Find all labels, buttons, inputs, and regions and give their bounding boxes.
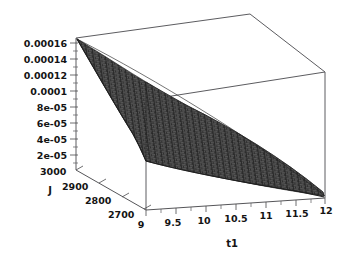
x-tick-label: 10.5: [224, 213, 247, 224]
x-tick-label: 9.5: [165, 217, 182, 228]
z-tick-label: 2e-05: [37, 150, 67, 161]
surface-mesh: [77, 39, 325, 197]
x-tick-label: 9: [138, 219, 145, 230]
x-tick-label: 11.5: [285, 208, 308, 219]
plot-canvas: 0.00016 0.00014 0.00012 0.0001 8e-05 6e-…: [0, 0, 341, 267]
x-tick-label: 10: [197, 215, 211, 226]
y-axis-title: J: [47, 185, 52, 196]
x-axis-title: t1: [226, 238, 238, 249]
y-tick-label: 2800: [85, 195, 112, 206]
z-tick-label: 0.00012: [24, 70, 67, 81]
y-tick-label: 2900: [62, 181, 89, 192]
z-tick-label: 6e-05: [37, 118, 67, 129]
z-tick-label: 4e-05: [37, 134, 67, 145]
z-tick-label: 0.00016: [24, 38, 68, 49]
surface-plot-figure: 0.00016 0.00014 0.00012 0.0001 8e-05 6e-…: [0, 0, 341, 267]
x-tick-label: 11: [259, 210, 272, 221]
z-axis-ticks: [70, 43, 78, 163]
z-axis-tick-labels: 0.00016 0.00014 0.00012 0.0001 8e-05 6e-…: [24, 38, 68, 161]
y-axis-tick-labels: 3000 2900 2800 2700: [40, 166, 135, 220]
z-tick-label: 0.00014: [24, 54, 68, 65]
y-tick-label: 3000: [40, 166, 67, 177]
y-tick-label: 2700: [108, 209, 135, 220]
x-tick-label: 12: [319, 205, 332, 216]
z-tick-label: 8e-05: [37, 102, 67, 113]
z-tick-label: 0.0001: [30, 86, 67, 97]
